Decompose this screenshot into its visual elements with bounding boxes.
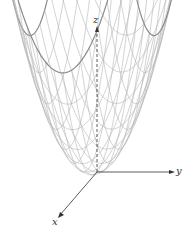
x-axis-label: x xyxy=(52,216,58,227)
y-axis-label: y xyxy=(176,165,182,176)
paraboloid-surface xyxy=(0,0,194,236)
paraboloid-diagram: z y x xyxy=(0,0,194,236)
z-axis-label: z xyxy=(93,14,98,25)
